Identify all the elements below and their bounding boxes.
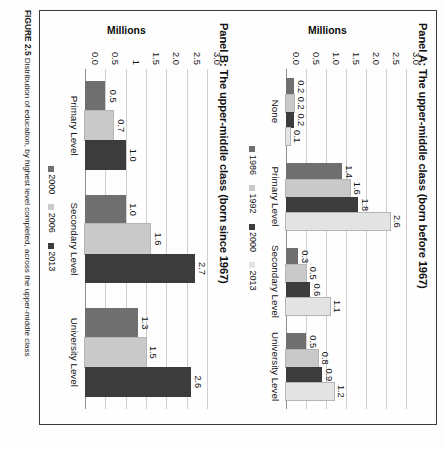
bar-group: 0.50.80.91.2University Level (286, 324, 406, 409)
legend-item: 2000 (248, 224, 258, 253)
bar-slot: 1.3 (85, 308, 207, 337)
category-label: Secondary Level (69, 182, 80, 295)
legend-swatch-icon (49, 166, 55, 172)
bar-group-bars: 1.41.61.82.6 (286, 154, 406, 239)
legend-label: 1986 (248, 155, 258, 175)
bar-slot: 0.1 (286, 128, 406, 145)
y-axis-tick: 0.0 (90, 52, 100, 65)
legend-swatch-icon (250, 224, 256, 230)
bar-slot: 1.6 (286, 180, 406, 197)
legend-label: 2013 (47, 251, 57, 271)
bar-slot: 0.6 (286, 282, 406, 299)
bar-value-label: 1.3 (140, 316, 150, 329)
bar-slot: 0.7 (85, 111, 207, 140)
category-label: None (270, 69, 281, 154)
bar-slot: 2.7 (85, 254, 207, 283)
bar-slot: 1.2 (286, 383, 406, 400)
bar-group: 1.01.62.7Secondary Level (85, 182, 207, 295)
category-label: Secondary Level (270, 239, 281, 324)
bar-slot: 0.5 (85, 81, 207, 110)
bar-slot: 0.5 (286, 333, 406, 350)
legend-label: 2013 (248, 271, 258, 291)
bar: 2.7 (85, 254, 195, 283)
legend-item: 1986 (248, 146, 258, 175)
bar-slot: 0.2 (286, 95, 406, 112)
legend-item: 2013 (47, 243, 57, 272)
bar-slot: 1.0 (85, 195, 207, 224)
legend-label: 2000 (47, 174, 57, 194)
bar: 0.5 (85, 81, 105, 110)
bar-value-label: 1.2 (337, 385, 347, 398)
y-axis-tick: 3.0 (411, 52, 421, 65)
bar: 0.3 (286, 248, 298, 265)
figure-caption-text: Distribution of education, by highest le… (23, 58, 32, 357)
bar-slot: 0.5 (286, 265, 406, 282)
figure-caption-label: FIGURE 2.5 (23, 10, 33, 56)
bar: 0.8 (286, 350, 318, 367)
bar-slot: 0.9 (286, 367, 406, 384)
bar-value-label: 1.0 (128, 149, 138, 162)
bar-value-label: 0.3 (301, 250, 311, 263)
bar-value-label: 0.1 (293, 130, 303, 143)
bar: 0.5 (286, 333, 306, 350)
legend-swatch-icon (49, 204, 55, 210)
bar: 1.8 (286, 197, 358, 214)
bar-slot: 1.0 (85, 140, 207, 169)
bar: 1.6 (85, 224, 150, 253)
bar-value-label: 0.7 (116, 119, 126, 132)
panel-b-legend: 200020062013 (47, 11, 57, 426)
panel-b-plot-area: 0.00.511.52.02.53.00.50.71.0Primary Leve… (85, 69, 207, 409)
bar: 0.9 (286, 367, 322, 384)
legend-swatch-icon (250, 262, 256, 268)
category-label: University Level (69, 296, 80, 409)
bar-value-label: 0.2 (297, 80, 307, 93)
bar-slot: 2.6 (286, 213, 406, 230)
y-axis-tick: 1 (131, 60, 141, 65)
panel-b: Panel B: The upper-middle class (born si… (38, 11, 237, 426)
y-axis-tick: 2.0 (371, 52, 381, 65)
legend-swatch-icon (250, 146, 256, 152)
panel-a: Panel A: The upper-middle class (born be… (237, 11, 436, 426)
bar-value-label: 0.5 (108, 90, 118, 103)
bar-slot: 0.8 (286, 350, 406, 367)
bar: 1.0 (85, 195, 126, 224)
legend-item: 2006 (47, 204, 57, 233)
legend-swatch-icon (49, 243, 55, 249)
y-axis-tick: 2.5 (192, 52, 202, 65)
bar-slot: 2.6 (85, 367, 207, 396)
bar-group-bars: 1.01.62.7 (85, 182, 207, 295)
bar-slot: 1.6 (85, 224, 207, 253)
bar: 0.5 (286, 265, 306, 282)
bar-group-bars: 1.31.52.6 (85, 296, 207, 409)
bar: 0.6 (286, 282, 310, 299)
bar-value-label: 2.7 (197, 262, 207, 275)
bar-group: 0.50.71.0Primary Level (85, 69, 207, 182)
bar-value-label: 0.6 (313, 283, 323, 296)
y-axis-tick: 2.0 (171, 52, 181, 65)
panel-b-y-axis-label: Millions (107, 25, 146, 36)
legend-item: 2013 (248, 262, 258, 291)
bar: 2.6 (85, 367, 191, 396)
legend-item: 1992 (248, 185, 258, 214)
panel-a-y-axis-label: Millions (308, 25, 347, 36)
bar-value-label: 0.9 (325, 368, 335, 381)
bar-group: 0.20.20.20.1None (286, 69, 406, 154)
bar-value-label: 1.8 (361, 198, 371, 211)
bar: 0.2 (286, 78, 294, 95)
bar-group-bars: 0.50.71.0 (85, 69, 207, 182)
bar-value-label: 1.0 (128, 203, 138, 216)
bar-group: 1.41.61.82.6Primary Level (286, 154, 406, 239)
bar-group: 0.30.50.61.1Secondary Level (286, 239, 406, 324)
bar: 1.0 (85, 140, 126, 169)
figure-border: Panel A: The upper-middle class (born be… (39, 10, 437, 425)
bar-value-label: 0.5 (308, 335, 318, 348)
bar-value-label: 0.8 (321, 352, 331, 365)
bar-group-bars: 0.20.20.20.1 (286, 69, 406, 154)
bar-group: 1.31.52.6University Level (85, 296, 207, 409)
bar-value-label: 1.6 (153, 233, 163, 246)
y-axis-tick: 0.5 (311, 52, 321, 65)
bar: 1.6 (286, 180, 350, 197)
bar-value-label: 0.5 (308, 267, 318, 280)
y-axis-tick: 0.0 (291, 52, 301, 65)
category-label: Primary Level (270, 154, 281, 239)
